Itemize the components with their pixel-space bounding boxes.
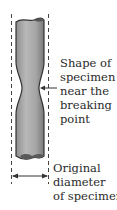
label-line: diameter: [53, 175, 117, 189]
label-line: Shape of: [60, 56, 115, 70]
specimen-body: [16, 18, 44, 159]
label-line: near the: [60, 84, 115, 98]
necking-shape-label: Shape of specimen near the breaking poin…: [60, 56, 115, 126]
label-line: of specimen: [53, 189, 117, 203]
diameter-arrow-left: [12, 174, 18, 179]
label-line: point: [60, 112, 115, 126]
label-line: specimen: [60, 70, 115, 84]
label-line: breaking: [60, 98, 115, 112]
neck-arrow-head: [40, 86, 45, 91]
diameter-arrow-right: [42, 174, 48, 179]
specimen-diagram: Shape of specimen near the breaking poin…: [0, 0, 117, 210]
original-diameter-label: Original diameter of specimen: [53, 161, 117, 203]
label-line: Original: [53, 161, 117, 175]
